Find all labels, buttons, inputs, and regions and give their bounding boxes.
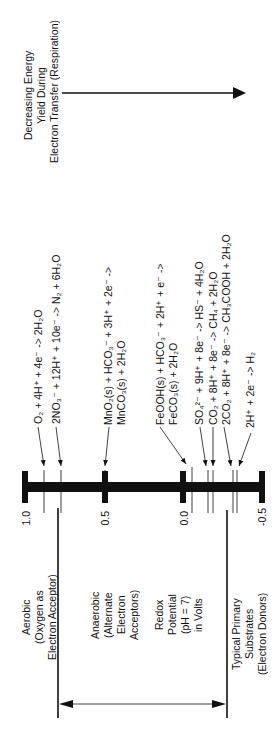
anaerobic-region-label: Anaerobic (Alternate Electron Acceptors) <box>89 585 141 645</box>
energy-yield-label: Decreasing Energy Yield During Electron … <box>22 28 61 163</box>
reaction-nitrate: 2NO₃⁻ + 12H⁺ + 10e⁻ -> N₂ + 6H₂O <box>50 262 63 424</box>
donors-region-label: Typical Primary Substrates (Electron Don… <box>230 584 269 684</box>
energy-label-line-1: Decreasing Energy <box>22 28 35 163</box>
reaction-hydrogen: 2H⁺ + 2e⁻ -> H₂ <box>244 340 257 428</box>
aerobic-line-2: (Oxygen as <box>33 562 46 672</box>
axis-title-line-4: in Volts <box>192 590 205 640</box>
tick-label-0.5: 0.5 <box>99 511 112 526</box>
reaction-iron-line-2: FeCO₃(s) + 2H₂O <box>167 222 180 425</box>
anaerobic-line-4: Acceptors) <box>128 585 141 645</box>
axis-title-line-1: Redox <box>153 590 166 640</box>
reaction-manganese: MnO₂(s) + HCO₃⁻ + 3H⁺ + 2e⁻ -> MnCO₃(s) … <box>102 220 128 425</box>
reaction-oxygen-text: O₂ + 4H⁺ + 4e⁻ -> 2H₂O <box>32 262 45 424</box>
reaction-manganese-line-2: MnCO₃(s) + 2H₂O <box>115 220 128 425</box>
reaction-methane-text: CO₂ + 8H⁺ + 8e⁻ -> CH₄ + 2H₂O <box>207 268 220 425</box>
reaction-pointers <box>38 427 251 513</box>
donors-line-2: Substrates <box>243 584 256 684</box>
tick-label-1.0: 1.0 <box>20 511 33 526</box>
reaction-hydrogen-text: 2H⁺ + 2e⁻ -> H₂ <box>244 340 257 428</box>
redox-scale-bar <box>22 471 265 503</box>
tick-minus-0.5 <box>259 471 265 503</box>
reaction-methane: CO₂ + 8H⁺ + 8e⁻ -> CH₄ + 2H₂O <box>207 268 220 425</box>
reaction-iron: FeOOH(s) + HCO₃⁻ + 2H⁺ + e⁻ -> FeCO₃(s) … <box>154 222 180 425</box>
reaction-acetate: 2CO₂ + 8H⁺ + 8e⁻ -> CH₃COOH + 2H₂O <box>220 236 233 425</box>
reaction-sulfate-text: SO₄²⁻ + 9H⁺ + 8e⁻ -> HS⁻ + 4H₂O <box>193 265 206 425</box>
anaerobic-line-1: Anaerobic <box>89 585 102 645</box>
reaction-nitrate-text: 2NO₃⁻ + 12H⁺ + 10e⁻ -> N₂ + 6H₂O <box>50 262 63 424</box>
reaction-manganese-line-1: MnO₂(s) + HCO₃⁻ + 3H⁺ + 2e⁻ -> <box>102 220 115 425</box>
reaction-acetate-text: 2CO₂ + 8H⁺ + 8e⁻ -> CH₃COOH + 2H₂O <box>220 236 233 425</box>
donors-line-3: (Electron Donors) <box>256 584 269 684</box>
energy-label-line-3: Electron Transfer (Respiration) <box>48 28 61 163</box>
anaerobic-line-2: (Alternate <box>102 585 115 645</box>
tick-1.0 <box>22 471 28 503</box>
energy-direction-arrow <box>62 87 246 99</box>
tick-label-0.0: 0.0 <box>178 511 191 526</box>
axis-title-line-2: Potential <box>166 590 179 640</box>
aerobic-line-3: Electron Acceptor) <box>46 562 59 672</box>
aerobic-region-label: Aerobic (Oxygen as Electron Acceptor) <box>20 562 59 672</box>
energy-label-line-2: Yield During <box>35 28 48 163</box>
redox-potential-axis-title: Redox Potential (pH = 7) in Volts <box>153 590 205 640</box>
axis-title-line-3: (pH = 7) <box>179 590 192 640</box>
reaction-oxygen: O₂ + 4H⁺ + 4e⁻ -> 2H₂O <box>32 262 45 424</box>
aerobic-line-1: Aerobic <box>20 562 33 672</box>
anaerobic-line-3: Electron <box>115 585 128 645</box>
donors-line-1: Typical Primary <box>230 584 243 684</box>
reaction-sulfate: SO₄²⁻ + 9H⁺ + 8e⁻ -> HS⁻ + 4H₂O <box>193 265 206 425</box>
reaction-iron-line-1: FeOOH(s) + HCO₃⁻ + 2H⁺ + e⁻ -> <box>154 222 167 425</box>
tick-label-minus-0.5: -0.5 <box>256 508 269 526</box>
tick-0.0 <box>180 471 186 503</box>
